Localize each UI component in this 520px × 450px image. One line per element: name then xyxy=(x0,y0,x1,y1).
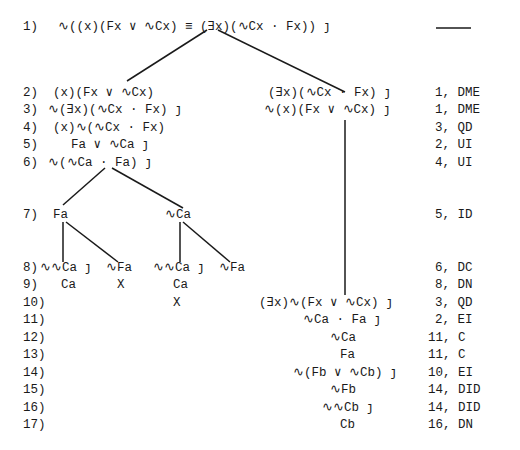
justification-8: 6, DC xyxy=(435,261,473,275)
line-number-11: 11) xyxy=(23,313,46,327)
justification-6: 4, UI xyxy=(435,156,473,170)
line-number-12: 12) xyxy=(23,331,46,345)
line-number-6: 6) xyxy=(23,156,38,170)
justification-4: 3, QD xyxy=(435,121,473,135)
formula-9a: Ca xyxy=(61,278,76,292)
formula-10-right: (∃x)∿(Fx ∨ ∿Cx) ȷ xyxy=(259,296,394,310)
formula-8a: ∿∿Ca ȷ xyxy=(40,261,92,275)
justification-15: 14, DID xyxy=(428,383,481,397)
premise-formula: ∿((x)(Fx ∨ ∿Cx) ≡ (∃x)(∿Cx · Fx)) ȷ xyxy=(58,20,331,34)
justification-5: 2, UI xyxy=(435,138,473,152)
formula-3-right: ∿(x)(Fx ∨ ∿Cx) ȷ xyxy=(264,103,391,117)
line-number-13: 13) xyxy=(23,348,46,362)
justification-2: 1, DME xyxy=(435,86,480,100)
formula-2-left: (x)(Fx ∨ ∿Cx) xyxy=(53,86,154,100)
justification-7: 5, ID xyxy=(435,208,473,222)
line-number-7: 7) xyxy=(23,208,38,222)
line-number-2: 2) xyxy=(23,86,38,100)
line-number-9: 9) xyxy=(23,278,38,292)
justification-9: 8, DN xyxy=(435,278,473,292)
branch-line-right-top xyxy=(218,30,345,92)
branch-line-fa-diag xyxy=(66,222,118,262)
line-number-15: 15) xyxy=(23,383,46,397)
formula-9c: Ca xyxy=(173,278,188,292)
formula-8c: ∿∿Ca ȷ xyxy=(153,261,205,275)
line-number-16: 16) xyxy=(23,401,46,415)
line-number-10: 10) xyxy=(23,296,46,310)
formula-11: ∿Ca · Fa ȷ xyxy=(303,313,382,327)
formula-12: ∿Ca xyxy=(330,331,356,345)
formula-8d: ∿Fa xyxy=(219,261,245,275)
formula-15: ∿Fb xyxy=(330,383,356,397)
line-number-5: 5) xyxy=(23,138,38,152)
justification-11: 2, EI xyxy=(435,313,473,327)
justification-17: 16, DN xyxy=(428,418,473,432)
branch-line-6-left xyxy=(63,168,105,205)
formula-7-fa: Fa xyxy=(53,208,68,222)
closed-branch-x: X xyxy=(173,296,181,310)
formula-4-left: (x)∿(∿Cx · Fx) xyxy=(53,121,165,135)
justification-14: 10, EI xyxy=(428,366,473,380)
justification-3: 1, DME xyxy=(435,103,480,117)
justification-13: 11, C xyxy=(428,348,466,362)
formula-13: Fa xyxy=(340,348,355,362)
branch-line-ca-diag xyxy=(183,222,230,262)
branch-line-6-right xyxy=(112,168,183,208)
formula-7-nca: ∿Ca xyxy=(165,208,191,222)
formula-14: ∿(Fb ∨ ∿Cb) ȷ xyxy=(293,366,398,380)
justification-10: 3, QD xyxy=(435,296,473,310)
formula-17: Cb xyxy=(340,418,355,432)
formula-16: ∿∿Cb ȷ xyxy=(322,401,374,415)
formula-5-left: Fa ∨ ∿Ca ȷ xyxy=(71,138,150,152)
closed-branch-x: X xyxy=(117,278,125,292)
line-number-4: 4) xyxy=(23,121,38,135)
line-number-17: 17) xyxy=(23,418,46,432)
formula-3-left: ∿(∃x)(∿Cx · Fx) ȷ xyxy=(48,103,183,117)
line-number-14: 14) xyxy=(23,366,46,380)
justification-16: 14, DID xyxy=(428,401,481,415)
line-number-3: 3) xyxy=(23,103,38,117)
formula-8b: ∿Fa xyxy=(106,261,132,275)
formula-2-right: (∃x)(∿Cx · Fx) ȷ xyxy=(268,86,392,100)
formula-6-left: ∿(∿Ca · Fa) ȷ xyxy=(48,156,153,170)
line-number-1: 1) xyxy=(23,20,38,34)
justification-12: 11, C xyxy=(428,331,466,345)
line-number-8: 8) xyxy=(23,261,38,275)
branch-line-left-top xyxy=(127,30,207,81)
